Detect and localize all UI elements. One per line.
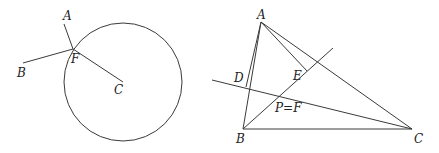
label-c: C: [114, 83, 123, 97]
segment-ae: [261, 22, 307, 71]
segment-ad: [246, 22, 261, 87]
label-d: D: [233, 71, 244, 85]
triangle-figure: ADEP=FBC: [212, 8, 423, 146]
label-e: E: [292, 69, 302, 83]
label-pf: P=F: [274, 101, 302, 115]
segment-fc: [73, 49, 123, 82]
label-a: A: [62, 9, 72, 23]
label-c: C: [414, 132, 423, 146]
label-b: B: [16, 66, 26, 80]
side-ab: [243, 22, 261, 129]
label-b: B: [235, 132, 245, 146]
segment-af: [64, 24, 73, 49]
circle-figure: ABFC: [16, 9, 182, 141]
geometry-diagram: ABFCADEP=FBC: [0, 0, 439, 153]
line-dc: [212, 80, 412, 129]
line-be: [243, 48, 333, 129]
label-a: A: [256, 8, 266, 22]
segment-bf: [23, 49, 73, 63]
label-f: F: [70, 52, 80, 66]
